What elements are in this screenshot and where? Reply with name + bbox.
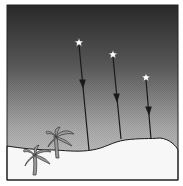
starlight-diagram [0, 0, 183, 186]
